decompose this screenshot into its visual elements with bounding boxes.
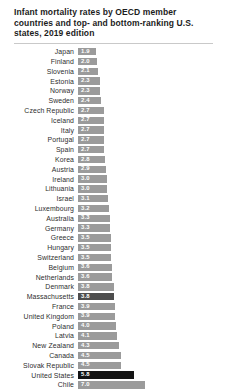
title-divider [14,43,213,44]
bar-value: 3.8 [78,294,90,300]
bar-label: Denmark [0,283,78,290]
bar-label: Italy [0,127,78,134]
bar-row: Norway2.3 [0,86,227,96]
bar-value: 3.6 [78,274,90,280]
bar-value: 3.9 [78,304,90,310]
bar-label: Greece [0,234,78,241]
bar: 4.3 [78,342,119,349]
bar-row: Slovenia2.1 [0,66,227,76]
bar-row: Korea2.8 [0,155,227,165]
bar-row: Slovak Republic4.5 [0,360,227,370]
bar-row: Greece3.5 [0,233,227,243]
bar-row: Massachusetts3.8 [0,292,227,302]
bar: 2.7 [78,117,104,124]
bar-value: 2.1 [78,68,90,74]
bar-value: 4.0 [78,323,90,329]
bar: 2.3 [78,77,100,84]
bar-value: 3.1 [78,196,90,202]
bar-row: United Kingdom3.9 [0,311,227,321]
bar-label: Norway [0,87,78,94]
bar-row: Australia3.3 [0,213,227,223]
bar: 3.0 [78,175,107,182]
bar-label: Iceland [0,117,78,124]
bar-rows: Japan1.9Finland2.0Slovenia2.1Estonia2.3N… [0,47,227,390]
bar-value: 3.8 [78,284,90,290]
bar-label: Austria [0,166,78,173]
bar-label: United States [0,372,78,379]
bar-row: Netherlands3.6 [0,272,227,282]
bar-row: Lithuania3.0 [0,184,227,194]
bar: 1.9 [78,48,96,55]
bar-label: Sweden [0,97,78,104]
bar: 2.7 [78,107,104,114]
bar: 3.8 [78,283,114,290]
bar: 3.9 [78,313,115,320]
bar-row: Italy2.7 [0,125,227,135]
bar-label: Slovak Republic [0,362,78,369]
bar: 3.5 [78,254,111,261]
bar-row: New Zealand4.3 [0,341,227,351]
bar-value: 7.0 [78,382,90,388]
bar-value: 3.5 [78,245,90,251]
bar-value: 2.4 [78,98,90,104]
bar-row: Latvia4.1 [0,331,227,341]
bar-value: 2.3 [78,88,90,94]
bar: 4.5 [78,362,121,369]
bar-label: Poland [0,323,78,330]
bar-value: 2.3 [78,78,90,84]
bar-label: Portugal [0,136,78,143]
bar-value: 3.3 [78,215,90,221]
bar: 3.8 [78,293,114,300]
bar-row: United States5.8 [0,370,227,380]
bar-row: Germany3.3 [0,223,227,233]
bar-row: Hungary3.5 [0,243,227,253]
bar-value: 3.9 [78,313,90,319]
bar: 7.0 [78,381,145,388]
chart-figure: Infant mortality rates by OECD member co… [0,0,227,390]
bar-value: 3.2 [78,206,90,212]
bar: 2.7 [78,126,104,133]
bar: 3.6 [78,264,112,271]
bar-label: Lithuania [0,185,78,192]
bar: 4.0 [78,322,116,329]
bar-row: Luxembourg3.2 [0,204,227,214]
bar-row: Czech Republic2.7 [0,106,227,116]
bar: 3.2 [78,205,109,212]
bar-row: Denmark3.8 [0,282,227,292]
bar-value: 4.5 [78,353,90,359]
bar: 3.1 [78,195,108,202]
bar-label: Massachusetts [0,293,78,300]
bar: 3.5 [78,244,111,251]
bar-label: New Zealand [0,342,78,349]
bar: 2.4 [78,97,101,104]
bar: 2.0 [78,58,97,65]
bar-label: Germany [0,225,78,232]
bar-value: 3.0 [78,186,90,192]
bar-value: 4.3 [78,343,90,349]
bar-value: 2.9 [78,166,90,172]
bar-label: Japan [0,48,78,55]
bar: 3.3 [78,224,110,231]
bar-value: 2.7 [78,108,90,114]
bar-row: Iceland2.7 [0,115,227,125]
bar-value: 3.5 [78,235,90,241]
bar-row: Sweden2.4 [0,96,227,106]
bar: 2.8 [78,156,105,163]
bar-row: Japan1.9 [0,47,227,57]
bar-value: 3.6 [78,264,90,270]
bar-row: Portugal2.7 [0,135,227,145]
bar-row: France3.9 [0,302,227,312]
bar-value: 1.9 [78,49,90,55]
bar: 3.6 [78,273,112,280]
bar-label: Finland [0,58,78,65]
bar: 3.5 [78,234,111,241]
bar: 2.9 [78,166,106,173]
bar-value: 5.8 [78,372,90,378]
bar-label: Czech Republic [0,107,78,114]
bar: 3.3 [78,215,110,222]
bar-value: 2.0 [78,59,90,65]
bar-label: Ireland [0,176,78,183]
bar-label: Slovenia [0,68,78,75]
bar: 2.1 [78,68,98,75]
bar: 2.7 [78,136,104,143]
